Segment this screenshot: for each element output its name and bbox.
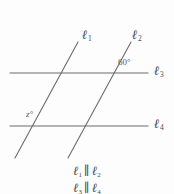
geometry-figure: ℓ1 ℓ2 ℓ3 ℓ4 60° z° ℓ1∥ℓ2 ℓ3∥ℓ4 [0,0,174,194]
caption-line-2: ℓ3∥ℓ4 [0,181,174,194]
caption-line-1: ℓ1∥ℓ2 [0,164,174,181]
line-l1 [15,42,78,158]
caption: ℓ1∥ℓ2 ℓ3∥ℓ4 [0,164,174,194]
angle-label-60: 60° [118,58,131,67]
line-label-l3: ℓ3 [154,64,163,77]
angle-label-z: z° [26,110,33,119]
line-label-l4: ℓ4 [154,117,163,130]
line-label-l2: ℓ2 [132,28,141,41]
line-label-l1: ℓ1 [82,28,91,41]
